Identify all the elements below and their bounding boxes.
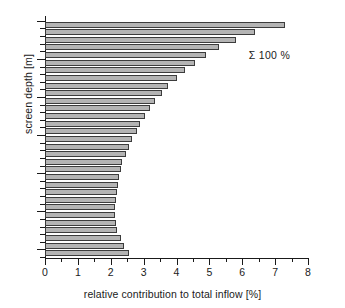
bar [45,166,121,172]
bar [45,212,115,218]
y-axis-major-tick [37,21,45,22]
y-axis-minor-tick [40,44,45,45]
x-axis-tick-label: 0 [33,267,57,278]
y-axis-title: screen depth [m] [22,14,34,174]
x-axis-major-tick [78,258,79,265]
y-axis-minor-tick [40,234,45,235]
y-axis-minor-tick [40,242,45,243]
y-axis-minor-tick [40,143,45,144]
x-axis-minor-tick [292,258,293,262]
x-axis-major-tick [144,258,145,265]
x-axis-minor-tick [226,258,227,262]
bar [45,83,168,89]
y-axis-minor-tick [40,181,45,182]
x-axis-minor-tick [160,258,161,262]
y-axis-minor-tick [40,219,45,220]
y-axis-minor-tick [40,120,45,121]
y-axis-minor-tick [40,89,45,90]
x-axis-tick-label: 3 [132,267,156,278]
bar [45,121,140,127]
bar [45,105,150,111]
bar [45,136,132,142]
y-axis-minor-tick [40,74,45,75]
x-axis-minor-tick [61,258,62,262]
y-axis-minor-tick [40,28,45,29]
bar [45,75,177,81]
x-axis-minor-tick [193,258,194,262]
bar [45,29,255,35]
bar [45,44,219,50]
y-axis-minor-tick [40,158,45,159]
y-axis-minor-tick [40,105,45,106]
x-axis-tick-label: 2 [99,267,123,278]
x-axis-tick-label: 1 [66,267,90,278]
bar [45,159,122,165]
x-axis-major-tick [242,258,243,265]
bar [45,22,285,28]
y-axis-minor-tick [40,204,45,205]
x-axis-major-tick [275,258,276,265]
bar [45,235,121,241]
x-axis-major-tick [45,258,46,265]
bar [45,204,115,210]
y-axis-minor-tick [40,127,45,128]
y-axis-minor-tick [40,67,45,68]
bar [45,98,155,104]
bar [45,90,162,96]
y-axis-minor-tick [40,36,45,37]
sum-annotation: Σ 100 % [249,49,290,61]
y-axis-minor-tick [40,196,45,197]
bar [45,67,185,73]
x-axis-minor-tick [127,258,128,262]
x-axis-tick-label: 6 [230,267,254,278]
bar-chart-figure: screen depth [m] relative contribution t… [0,0,345,308]
x-axis-tick-label: 8 [296,267,320,278]
y-axis-minor-tick [40,112,45,113]
bar [45,144,129,150]
y-axis-major-tick [37,249,45,250]
bar [45,37,236,43]
x-axis-major-tick [111,258,112,265]
x-axis-major-tick [308,258,309,265]
y-axis-major-tick [37,173,45,174]
bar [45,113,145,119]
y-axis-minor-tick [40,150,45,151]
bar [45,197,116,203]
bar [45,60,195,66]
x-axis-tick-label: 4 [165,267,189,278]
y-axis-minor-tick [40,82,45,83]
x-axis-minor-tick [94,258,95,262]
x-axis-major-tick [209,258,210,265]
x-axis-tick-label: 7 [263,267,287,278]
x-axis-title: relative contribution to total inflow [%… [0,288,345,300]
y-axis-major-tick [37,135,45,136]
bar [45,220,116,226]
y-axis-major-tick [37,211,45,212]
bar [45,52,206,58]
y-axis-major-tick [37,97,45,98]
bar [45,227,117,233]
y-axis-major-tick [37,59,45,60]
y-axis-minor-tick [40,51,45,52]
bar [45,250,129,256]
bar [45,174,119,180]
bar [45,243,124,249]
y-axis-minor-tick [40,227,45,228]
x-axis-tick-label: 5 [197,267,221,278]
bar [45,189,117,195]
bar [45,151,126,157]
y-axis-minor-tick [40,166,45,167]
y-axis-minor-tick [40,188,45,189]
x-axis-major-tick [177,258,178,265]
bar [45,128,137,134]
x-axis-minor-tick [259,258,260,262]
bar [45,182,118,188]
